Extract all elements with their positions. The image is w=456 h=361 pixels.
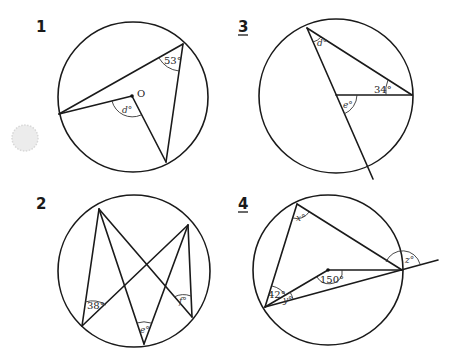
diagram-3-number: 3 xyxy=(238,18,248,36)
angle-label-f: f° xyxy=(178,296,187,306)
diagram-4: 4 x° 42° y° 150° z° xyxy=(238,195,438,345)
angle-label-150: 150° xyxy=(320,274,344,285)
angle-label-e: e° xyxy=(343,100,353,110)
diagram-4-number: 4 xyxy=(238,195,248,213)
angle-label-x: x° xyxy=(296,213,306,223)
angle-label-53: 53° xyxy=(164,55,182,66)
diagram-1: 1 O 53° d° xyxy=(36,18,208,172)
angle-label-38: 38° xyxy=(87,300,105,311)
diagram-1-number: 1 xyxy=(36,18,46,36)
angle-label-d: d° xyxy=(122,105,132,115)
angle-label-e: e° xyxy=(140,325,150,335)
diagram-2-number: 2 xyxy=(36,195,46,213)
diagram-2-circle xyxy=(58,195,210,347)
circle-theorem-exercises: 1 O 53° d° 3 d° 34° e° 2 xyxy=(0,0,456,361)
diagram-2: 2 38° e° f° xyxy=(36,195,210,347)
decorative-sun-icon xyxy=(12,125,38,151)
center-label: O xyxy=(137,88,145,99)
angle-label-34: 34° xyxy=(374,84,392,95)
center-point xyxy=(326,268,330,272)
center-point xyxy=(130,94,134,98)
angle-label-d: d° xyxy=(317,38,327,48)
angle-label-z: z° xyxy=(404,255,414,265)
angle-label-y: y° xyxy=(282,295,293,305)
diagram-3: 3 d° 34° e° xyxy=(238,18,413,179)
